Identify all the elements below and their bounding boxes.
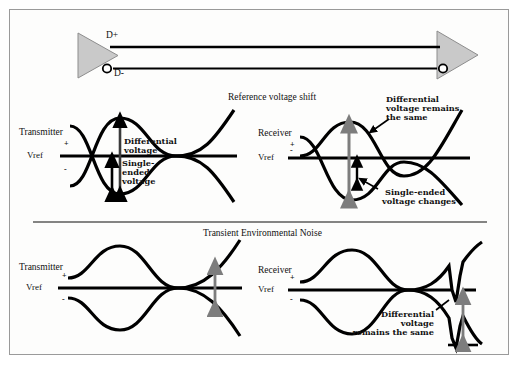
top-panel-title: Reference voltage shift (228, 92, 316, 102)
bottom-right-vref-label: Vref (258, 285, 274, 295)
dplus-waveform-bottom-right (300, 242, 482, 302)
dplus-label: D+ (106, 30, 118, 40)
bottom-left-node-label: Transmitter (19, 262, 63, 272)
dminus-label: D- (114, 68, 124, 78)
bottom-right-plus-sign: + (290, 274, 295, 283)
top-left-se-ann-line3: voltage (122, 177, 155, 186)
diagram-canvas: D+ D- Reference voltage shift Transient … (0, 0, 520, 366)
bottom-right-minus-sign: - (290, 296, 293, 305)
bottom-right-node-label: Receiver (258, 265, 292, 275)
receiver-inverting-bubble (439, 64, 447, 72)
top-right-vref-label: Vref (258, 153, 274, 163)
top-left-vref-label: Vref (27, 151, 43, 161)
top-left-node-label: Transmitter (19, 127, 63, 137)
top-right-diff-ann-line3: the same (386, 113, 428, 122)
top-right-minus-sign: - (290, 147, 293, 156)
bottom-panel-title: Transient Environmental Noise (203, 228, 322, 238)
driver-inverting-bubble (103, 64, 111, 72)
bottom-left-minus-sign: - (62, 296, 65, 305)
bottom-right-diff-ann-line3: remains the same (318, 328, 434, 337)
bottom-left-waveforms (58, 240, 242, 336)
diagram-vector-layer (0, 0, 520, 366)
top-left-diff-ann-line2: voltage (124, 146, 157, 155)
top-left-plus-sign: + (64, 140, 69, 149)
top-left-waveforms (60, 110, 237, 202)
bottom-left-vref-label: Vref (26, 283, 42, 293)
top-left-minus-sign: - (64, 166, 67, 175)
top-right-se-ann-line2: voltage changes (382, 197, 456, 206)
link-diagram (78, 31, 478, 79)
top-right-node-label: Receiver (258, 128, 292, 138)
bottom-left-plus-sign: + (62, 272, 67, 281)
